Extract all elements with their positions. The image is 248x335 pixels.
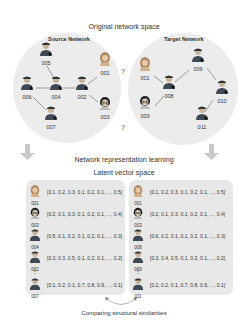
person-icon xyxy=(162,75,176,89)
glasses-person-icon xyxy=(138,95,152,109)
source-node-002: 002 xyxy=(73,76,91,100)
embedding-vector: [0.3, 0.4, 0.5, 0.1, 0.2, 0.1, ..., 0.2] xyxy=(150,255,225,261)
embedding-vector: [0.2, 0.1, 0.3, 0.1, 0.2, 0.1, ..., 0.4] xyxy=(47,211,122,217)
female-person-icon xyxy=(29,185,41,197)
person-icon xyxy=(132,278,144,290)
person-icon xyxy=(29,229,41,241)
person-icon xyxy=(132,229,144,241)
person-icon xyxy=(44,106,58,120)
person-icon xyxy=(191,48,205,62)
person-icon xyxy=(49,76,63,90)
embedding-vector: [0.1, 0.2, 0.3, 0.1, 0.2, 0.1, ..., 0.5] xyxy=(47,189,122,195)
embedding-vector: [0.5, 0.1, 0.2, 0.1, 0.2, 0.1, ..., 0.3] xyxy=(47,233,122,239)
vertical-ellipsis: ⋮ xyxy=(135,267,141,274)
source-node-005: 005 xyxy=(37,42,55,66)
female-person-icon xyxy=(132,185,144,197)
female-person-icon xyxy=(98,52,112,66)
person-icon xyxy=(39,42,53,56)
comparing-similarities-label: Comparing structural similarities xyxy=(0,310,248,316)
glasses-person-icon xyxy=(98,96,112,110)
target-node-010: 010 xyxy=(213,80,231,104)
question-mark-1: ? xyxy=(121,68,125,75)
target-node-001: 001 xyxy=(136,57,154,81)
glasses-person-icon xyxy=(29,207,41,219)
target-node-003: 003 xyxy=(136,95,154,119)
person-icon xyxy=(75,76,89,90)
target-node-009: 009 xyxy=(189,48,207,72)
question-mark-2: ? xyxy=(121,124,125,131)
source-node-004: 004 xyxy=(47,76,65,100)
target-node-011: 011 xyxy=(193,106,211,130)
representation-learning-label: Network representation learning xyxy=(0,156,248,163)
embedding-vector: [0.1, 0.2, 0.3, 0.1, 0.2, 0.1, ..., 0.5] xyxy=(150,189,225,195)
source-node-007: 007 xyxy=(42,106,60,130)
person-icon xyxy=(132,251,144,263)
female-person-icon xyxy=(138,57,152,71)
target-node-008: 008 xyxy=(160,75,178,99)
person-icon xyxy=(29,251,41,263)
source-node-006: 006 xyxy=(18,76,36,100)
embedding-vector: [0.2, 0.2, 0.1, 0.7, 0.8, 0.9, ..., 0.1] xyxy=(150,282,225,288)
person-icon xyxy=(195,106,209,120)
glasses-person-icon xyxy=(132,207,144,219)
person-icon xyxy=(29,278,41,290)
vertical-ellipsis: ⋮ xyxy=(32,267,38,274)
embedding-vector: [0.1, 0.2, 0.1, 0.7, 0.8, 0.9, ..., 0.1] xyxy=(47,282,122,288)
source-node-003: 003 xyxy=(96,96,114,120)
embedding-vector: [0.3, 0.3, 0.5, 0.1, 0.2, 0.1, ..., 0.2] xyxy=(47,255,122,261)
latent-space-title: Latent vector space xyxy=(0,169,248,176)
person-icon xyxy=(20,76,34,90)
embedding-vector: [0.6, 0.2, 0.1, 0.1, 0.2, 0.1, ..., 0.3] xyxy=(150,233,225,239)
source-node-001: 001 xyxy=(96,52,114,76)
person-icon xyxy=(215,80,229,94)
embedding-vector: [0.2, 0.1, 0.3, 0.1, 0.2, 0.1, ..., 0.4] xyxy=(150,211,225,217)
